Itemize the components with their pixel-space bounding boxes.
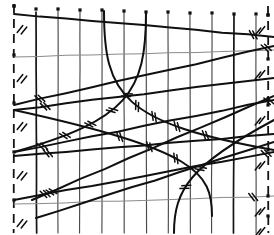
left-terminal-node-3: [12, 150, 15, 153]
figure-root: Barbed wire fence lattice diagram: [0, 0, 274, 235]
post-1: [36, 12, 37, 233]
top-terminal-node-2: [56, 7, 59, 10]
left-terminal-node-0: [12, 4, 15, 7]
top-terminal-node-7: [166, 10, 169, 13]
right-terminal-node-4: [266, 194, 269, 197]
post-10: [233, 15, 234, 233]
top-terminal-node-4: [100, 8, 103, 11]
left-terminal-node-2: [12, 101, 15, 104]
top-terminal-node-5: [122, 9, 125, 12]
barbed-wire-fence-diagram: Barbed wire fence lattice diagram: [0, 0, 274, 235]
right-terminal-node-0: [266, 13, 269, 16]
top-terminal-node-3: [78, 8, 81, 11]
top-terminal-node-9: [210, 11, 213, 14]
top-terminal-node-10: [232, 12, 235, 15]
right-terminal-node-2: [266, 103, 269, 106]
left-terminal-node-4: [12, 198, 15, 201]
top-terminal-node-11: [254, 12, 257, 15]
left-terminal-node-1: [12, 53, 15, 56]
top-terminal-node-8: [188, 11, 191, 14]
post-8: [190, 14, 191, 233]
top-terminal-node-6: [144, 10, 147, 13]
right-terminal-node-5: [266, 214, 269, 217]
right-terminal-node-3: [266, 148, 269, 151]
right-terminal-node-1: [266, 57, 269, 60]
top-terminal-node-1: [34, 7, 37, 10]
post-3: [80, 11, 81, 233]
